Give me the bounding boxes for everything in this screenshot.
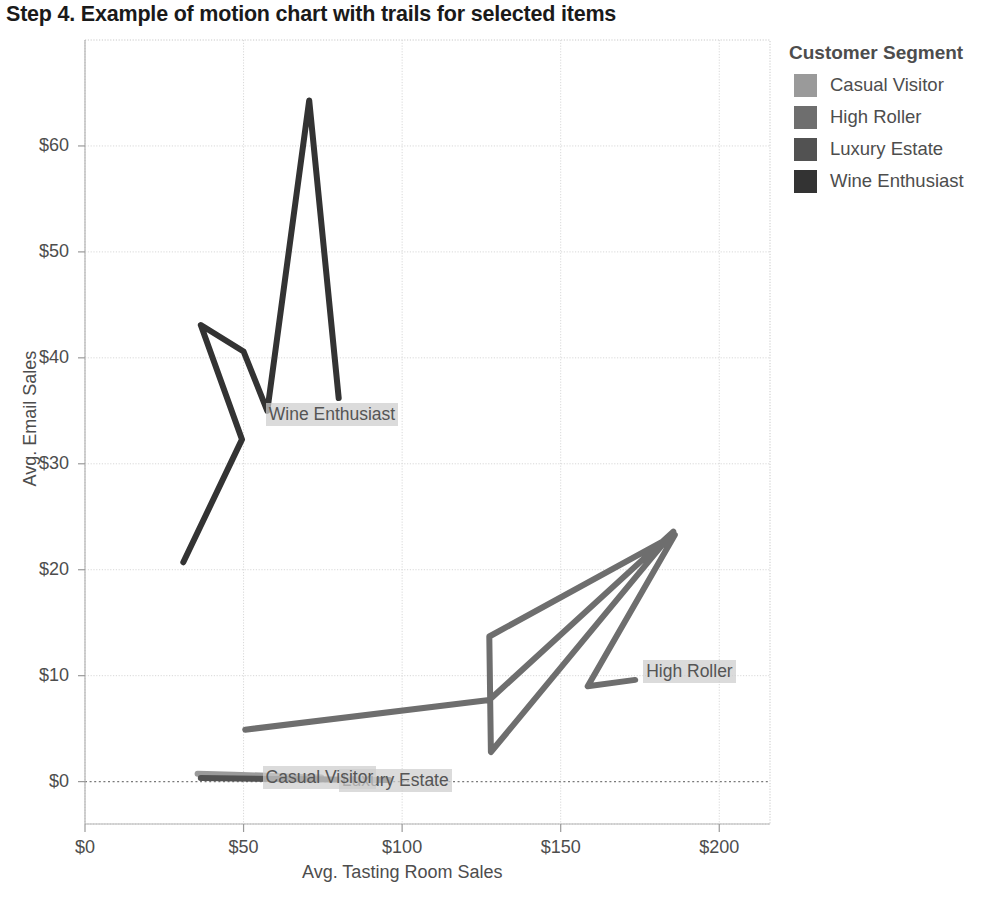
- legend: Customer Segment Casual VisitorHigh Roll…: [789, 42, 1003, 197]
- y-tick-label: $10: [9, 665, 69, 686]
- legend-title: Customer Segment: [789, 42, 1003, 64]
- y-tick-label: $40: [9, 347, 69, 368]
- legend-item-label: High Roller: [830, 106, 922, 128]
- legend-item-luxury-estate[interactable]: Luxury Estate: [789, 133, 1003, 165]
- y-tick-label: $0: [9, 771, 69, 792]
- y-tick-label: $50: [9, 241, 69, 262]
- x-tick-label: $0: [45, 837, 125, 858]
- legend-swatch-icon: [794, 138, 817, 161]
- x-tick-label: $200: [679, 837, 759, 858]
- trail-high-roller[interactable]: [245, 532, 675, 752]
- y-tick-label: $30: [9, 453, 69, 474]
- trail-label-high-roller[interactable]: High Roller: [643, 660, 736, 683]
- legend-item-label: Luxury Estate: [830, 138, 943, 160]
- y-tick-label: $60: [9, 135, 69, 156]
- legend-items: Casual VisitorHigh RollerLuxury EstateWi…: [789, 69, 1003, 197]
- x-tick-label: $150: [521, 837, 601, 858]
- legend-swatch-icon: [794, 74, 817, 97]
- legend-item-casual-visitor[interactable]: Casual Visitor: [789, 69, 1003, 101]
- legend-item-label: Wine Enthusiast: [830, 170, 964, 192]
- legend-item-high-roller[interactable]: High Roller: [789, 101, 1003, 133]
- trail-wine-enthusiast[interactable]: [183, 100, 338, 562]
- x-tick-label: $100: [362, 837, 442, 858]
- x-axis-title: Avg. Tasting Room Sales: [302, 862, 502, 883]
- legend-item-label: Casual Visitor: [830, 74, 944, 96]
- legend-swatch-icon: [794, 106, 817, 129]
- y-tick-label: $20: [9, 559, 69, 580]
- trail-label-casual-visitor[interactable]: Casual Visitor: [263, 766, 377, 789]
- x-tick-label: $50: [204, 837, 284, 858]
- trail-label-wine-enthusiast[interactable]: Wine Enthusiast: [266, 403, 398, 426]
- legend-item-wine-enthusiast[interactable]: Wine Enthusiast: [789, 165, 1003, 197]
- legend-swatch-icon: [794, 170, 817, 193]
